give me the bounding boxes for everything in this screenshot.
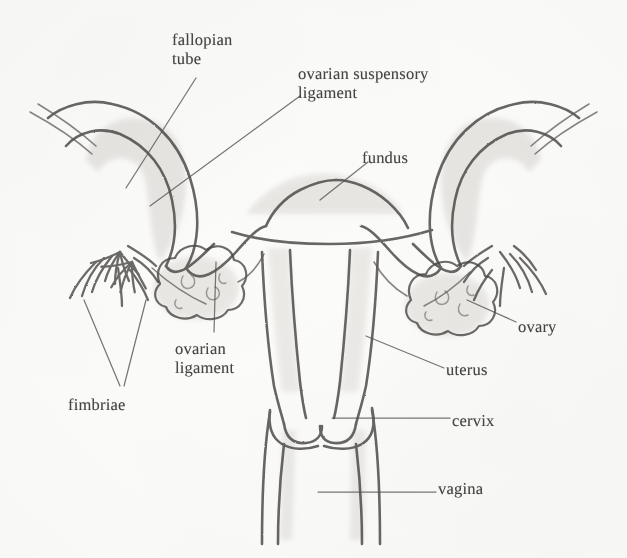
label-ovarian-suspensory-ligament-line2: ligament: [298, 83, 357, 102]
label-ovary: ovary: [518, 317, 557, 336]
label-ovarian-suspensory-ligament-line1: ovarian suspensory: [298, 64, 429, 83]
label-cervix: cervix: [452, 411, 494, 430]
broad-ligament-line: [232, 230, 432, 244]
cervix-right-fold: [320, 424, 356, 443]
label-ovarian-ligament-line2: ligament: [175, 358, 234, 377]
vagina-wall-far-left: [262, 412, 270, 544]
label-ovarian-ligament-line1: ovarian: [175, 339, 226, 358]
suspensory-ligament-left-2: [38, 104, 96, 146]
leader-uterus: [366, 336, 444, 368]
label-ovarian-ligament: ovarianligament: [175, 339, 234, 378]
suspensory-ligament-right-2: [531, 104, 589, 146]
label-fimbriae: fimbriae: [68, 395, 126, 414]
leader-fimbriae-1: [84, 300, 120, 386]
diagram-canvas: fallopiantube ovarian suspensoryligament…: [0, 0, 627, 558]
label-vagina: vagina: [438, 479, 483, 498]
ovarian-ligament-right: [374, 262, 407, 296]
label-ovarian-suspensory-ligament: ovarian suspensoryligament: [298, 64, 429, 103]
label-fundus: fundus: [362, 148, 408, 167]
label-uterus: uterus: [446, 360, 488, 379]
label-fallopian-tube-line1: fallopian: [172, 30, 232, 49]
graphite-shading: [86, 118, 541, 540]
fimbriae-left: [70, 246, 158, 306]
label-fallopian-tube: fallopiantube: [172, 30, 232, 69]
label-fallopian-tube-line2: tube: [172, 49, 201, 68]
ovarian-ligament-left: [238, 254, 264, 282]
leader-fimbriae-2: [124, 300, 146, 386]
fimbriae-right: [464, 246, 546, 306]
